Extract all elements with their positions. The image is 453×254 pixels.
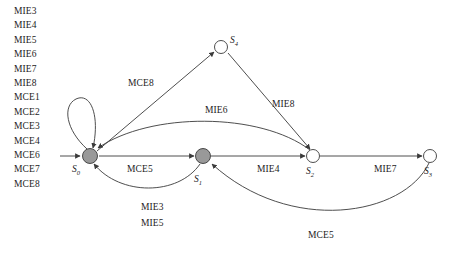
edge-label-mce8: MCE8: [128, 78, 154, 88]
edge-label-mie3: MIE3: [141, 202, 164, 212]
node-s2[interactable]: [307, 150, 320, 163]
edge-s0-to-s4-mce8: [97, 52, 214, 151]
node-label-s4: S4: [230, 35, 238, 47]
node-label-s1: S1: [194, 174, 202, 186]
node-label-s0: S0: [72, 164, 80, 176]
edge-label-mce5-lower: MCE5: [308, 230, 334, 240]
edge-label-mie8: MIE8: [272, 99, 295, 109]
edge-label-mie7: MIE7: [374, 164, 397, 174]
node-label-s3: S3: [424, 166, 432, 178]
node-label-s2: S2: [306, 166, 314, 178]
edge-label-mie4: MIE4: [257, 164, 280, 174]
edge-s4-to-s2-mie8: [228, 53, 310, 149]
edge-label-mie5: MIE5: [141, 218, 164, 228]
graph-nodes: [83, 41, 437, 164]
edge-label-mce5-upper: MCE5: [127, 164, 153, 174]
node-s4[interactable]: [215, 41, 228, 54]
edge-s0-self-loop: [68, 98, 96, 149]
edge-s2-to-s0-mie6: [98, 121, 310, 150]
figure-canvas: MIE3 MIE4 MIE5 MIE6 MIE7 MIE8 MCE1 MCE2 …: [0, 0, 453, 254]
state-transition-graph: [0, 0, 453, 254]
node-s1[interactable]: [196, 149, 211, 164]
node-s0[interactable]: [83, 149, 98, 164]
edge-label-mie6: MIE6: [205, 105, 228, 115]
node-s3[interactable]: [424, 150, 437, 163]
